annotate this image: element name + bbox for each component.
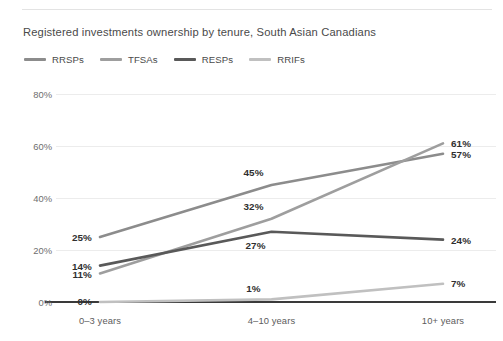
data-label-rrifs-1: 1%: [246, 283, 260, 294]
data-label-rrsps-1: 45%: [243, 167, 263, 178]
data-label-resps-2: 24%: [451, 234, 471, 245]
x-axis-tick-label: 0–3 years: [79, 315, 121, 326]
data-label-resps-1: 27%: [245, 239, 265, 250]
data-label-rrsps-2: 57%: [451, 148, 471, 159]
data-label-rrifs-2: 7%: [451, 277, 465, 288]
data-label-tfsas-1: 32%: [243, 200, 263, 211]
series-line-rrifs: [100, 284, 443, 302]
plot-area: 0%20%40%60%80% 25%45%57%11%32%61%14%27%2…: [0, 0, 503, 341]
data-label-rrifs-0: 0%: [78, 296, 92, 307]
x-axis-tick-label: 4–10 years: [248, 315, 295, 326]
x-axis-tick-label: 10+ years: [422, 315, 464, 326]
chart-page: Registered investments ownership by tenu…: [0, 0, 503, 341]
data-label-resps-0: 14%: [72, 260, 92, 271]
data-label-tfsas-2: 61%: [451, 138, 471, 149]
data-label-rrsps-0: 25%: [72, 232, 92, 243]
series-line-resps: [100, 232, 443, 266]
